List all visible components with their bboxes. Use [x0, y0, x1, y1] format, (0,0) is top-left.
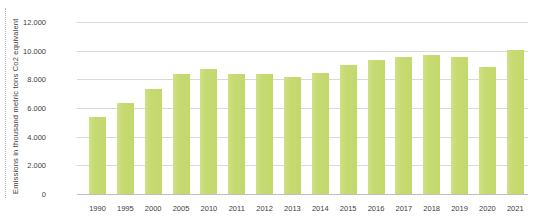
bar-2018	[423, 55, 440, 194]
x-tick-label-2014: 2014	[305, 204, 335, 213]
x-tick-label-2010: 2010	[194, 204, 224, 213]
bar-2017	[395, 57, 412, 194]
x-tick-label-2000: 2000	[138, 204, 168, 213]
x-axis-line	[77, 194, 528, 195]
x-tick-label-2011: 2011	[222, 204, 252, 213]
x-tick-label-2015: 2015	[333, 204, 363, 213]
plot-area: 02.0004.0006.0008.00010.00012.000	[77, 22, 528, 194]
bar-2010	[200, 69, 217, 194]
x-tick-label-2017: 2017	[389, 204, 419, 213]
bar-2016	[368, 60, 385, 194]
x-tick-label-2005: 2005	[166, 204, 196, 213]
y-tick-label: 8.000	[6, 75, 46, 84]
bar-2000	[145, 89, 162, 194]
bar-2020	[479, 67, 496, 194]
y-tick-label: 12.000	[6, 18, 46, 27]
x-tick-label-1990: 1990	[83, 204, 113, 213]
x-tick-label-2018: 2018	[417, 204, 447, 213]
emissions-bar-chart: Emissions in thousand metric tons Co2 eq…	[0, 0, 546, 224]
y-tick-label: 10.000	[6, 46, 46, 55]
x-tick-label-1995: 1995	[110, 204, 140, 213]
bar-1990	[89, 117, 106, 194]
bar-2005	[173, 74, 190, 194]
x-tick-label-2012: 2012	[250, 204, 280, 213]
gridline-10.000	[77, 51, 528, 52]
y-tick-label: 6.000	[6, 104, 46, 113]
bar-2019	[451, 57, 468, 194]
bar-2013	[284, 77, 301, 194]
y-tick-label: 2.000	[6, 161, 46, 170]
x-tick-label-2021: 2021	[500, 204, 530, 213]
y-tick-label: 0	[6, 190, 46, 199]
x-tick-label-2016: 2016	[361, 204, 391, 213]
gridline-12.000	[77, 22, 528, 23]
x-tick-label-2013: 2013	[277, 204, 307, 213]
bar-2021	[507, 50, 524, 194]
bar-1995	[117, 103, 134, 194]
bar-2011	[228, 74, 245, 194]
bar-2012	[256, 74, 273, 194]
bar-2014	[312, 73, 329, 194]
x-tick-label-2019: 2019	[445, 204, 475, 213]
bar-2015	[340, 65, 357, 194]
y-tick-label: 4.000	[6, 132, 46, 141]
x-tick-label-2020: 2020	[472, 204, 502, 213]
